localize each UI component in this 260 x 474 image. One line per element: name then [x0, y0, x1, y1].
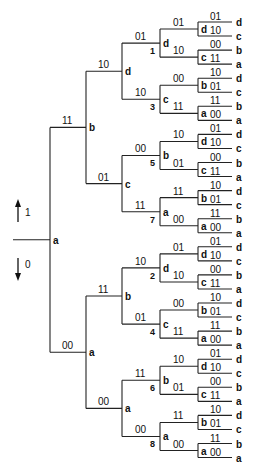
path-number: 3: [150, 102, 155, 112]
leaf-edge-label: 01: [210, 81, 222, 92]
leaf-edge-label: 10: [210, 180, 222, 191]
branch-edge-label: 10: [173, 354, 185, 365]
leaf-state-label: b: [236, 45, 242, 56]
leaf-state-label: c: [236, 143, 242, 154]
leaf-edge-label: 00: [210, 152, 222, 163]
branch-edge-label: 10: [135, 256, 147, 267]
leaf-state-label: c: [236, 200, 242, 211]
leaf-state-label: d: [236, 298, 242, 309]
state-node-label: c: [201, 277, 207, 288]
leaf-state-label: b: [236, 101, 242, 112]
leaf-state-label: a: [236, 396, 242, 407]
leaf-edge-label: 10: [210, 362, 222, 373]
state-node-label: a: [201, 108, 207, 119]
leaf-state-label: b: [236, 214, 242, 225]
tree: 01d10cd0100b11ac10d01110d01cb0011b00aa11…: [13, 11, 242, 464]
leaf-state-label: b: [236, 439, 242, 450]
path-number: 1: [150, 46, 155, 56]
leaf-state-label: d: [236, 410, 242, 421]
up-label: 1: [25, 207, 31, 218]
leaf-edge-label: 10: [210, 404, 222, 415]
state-node-label: a: [201, 221, 207, 232]
down-label: 0: [25, 259, 31, 270]
path-number: 2: [150, 271, 155, 281]
branch-edge-label: 10: [173, 129, 185, 140]
state-node-label: b: [163, 150, 169, 161]
branch-edge-label: 01: [173, 242, 185, 253]
branch-edge-label: 01: [173, 158, 185, 169]
leaf-edge-label: 11: [210, 95, 221, 106]
state-node-label: c: [125, 179, 131, 190]
branch-edge-label: 00: [135, 143, 147, 154]
branch-edge-label: 01: [135, 312, 147, 323]
state-node-label: d: [163, 38, 169, 49]
leaf-state-label: c: [236, 424, 242, 435]
leaf-state-label: d: [236, 354, 242, 365]
branch-edge-label: 10: [173, 45, 185, 56]
leaf-state-label: c: [236, 87, 242, 98]
leaf-state-label: d: [236, 242, 242, 253]
branch-edge-label: 10: [173, 270, 185, 281]
leaf-state-label: b: [236, 158, 242, 169]
leaf-state-label: d: [236, 17, 242, 28]
branch-edge-label: 11: [135, 200, 146, 211]
state-node-label: d: [201, 361, 207, 372]
state-node-label: c: [163, 319, 169, 330]
branch-edge-label: 00: [173, 73, 185, 84]
leaf-state-label: a: [236, 340, 242, 351]
branch-edge-label: 10: [98, 59, 110, 70]
state-node-label: a: [201, 333, 207, 344]
leaf-state-label: a: [236, 453, 242, 464]
path-number: 4: [150, 327, 155, 337]
leaf-edge-label: 01: [210, 11, 222, 22]
leaf-edge-label: 10: [210, 292, 222, 303]
leaf-state-label: d: [236, 186, 242, 197]
state-node-label: a: [125, 403, 131, 414]
leaf-edge-label: 11: [210, 433, 221, 444]
state-node-label: d: [125, 66, 131, 77]
leaf-state-label: d: [236, 73, 242, 84]
leaf-edge-label: 11: [210, 166, 221, 177]
path-number: 8: [150, 439, 155, 449]
branch-edge-label: 00: [173, 439, 185, 450]
branch-edge-label: 11: [173, 326, 184, 337]
leaf-state-label: a: [236, 172, 242, 183]
leaf-edge-label: 00: [210, 376, 222, 387]
state-node-label: b: [201, 417, 207, 428]
leaf-edge-label: 11: [210, 278, 221, 289]
leaf-edge-label: 01: [210, 194, 222, 205]
state-node-label: b: [201, 305, 207, 316]
state-node-label: a: [201, 446, 207, 457]
branch-edge-label: 00: [173, 298, 185, 309]
leaf-edge-label: 10: [210, 250, 222, 261]
leaf-edge-label: 10: [210, 67, 222, 78]
state-node-label: a: [89, 347, 95, 358]
branch-edge-label: 00: [62, 340, 74, 351]
branch-edge-label: 00: [173, 214, 185, 225]
branch-edge-label: 00: [135, 424, 147, 435]
state-node-label: b: [201, 193, 207, 204]
leaf-state-label: b: [236, 326, 242, 337]
path-number: 5: [150, 158, 155, 168]
leaf-state-label: c: [236, 31, 242, 42]
leaf-state-label: c: [236, 312, 242, 323]
leaf-edge-label: 00: [210, 264, 222, 275]
branch-edge-label: 11: [173, 186, 184, 197]
state-node-label: a: [163, 207, 169, 218]
leaf-edge-label: 11: [210, 320, 221, 331]
state-node-label: c: [201, 52, 207, 63]
path-number: 7: [150, 215, 155, 225]
arrow-down-icon: [15, 258, 21, 281]
leaf-edge-label: 01: [210, 123, 222, 134]
trellis-tree-diagram: 1 0 01d10cd0100b11ac10d01110d01cb0011b00…: [0, 0, 260, 474]
leaf-state-label: c: [236, 368, 242, 379]
branch-edge-label: 11: [62, 115, 73, 126]
state-node-label: c: [201, 389, 207, 400]
leaf-state-label: b: [236, 270, 242, 281]
leaf-edge-label: 11: [210, 53, 221, 64]
state-node-label: b: [89, 122, 95, 133]
branch-edge-label: 01: [173, 17, 185, 28]
leaf-edge-label: 01: [210, 306, 222, 317]
branch-edge-label: 00: [98, 396, 110, 407]
state-node-label: d: [201, 24, 207, 35]
